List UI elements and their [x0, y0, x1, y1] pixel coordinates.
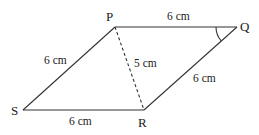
vertex-label-Q: Q [240, 19, 250, 34]
edge-QR [144, 27, 237, 110]
diagonal-label-PR: 5 cm [134, 57, 157, 69]
parallelogram-figure: P Q R S 6 cm 6 cm 6 cm 6 cm 5 cm [0, 0, 259, 135]
edge-label-PQ: 6 cm [167, 10, 190, 22]
angle-arc-Q [216, 27, 221, 41]
edge-label-QR: 6 cm [193, 72, 216, 84]
edge-SP [23, 27, 115, 110]
edge-label-RS: 6 cm [69, 115, 92, 127]
vertex-label-S: S [11, 103, 18, 118]
edge-label-SP: 6 cm [44, 54, 67, 66]
vertex-label-P: P [106, 9, 113, 24]
diagram-canvas: P Q R S 6 cm 6 cm 6 cm 6 cm 5 cm [0, 0, 259, 135]
vertex-label-R: R [138, 115, 147, 130]
